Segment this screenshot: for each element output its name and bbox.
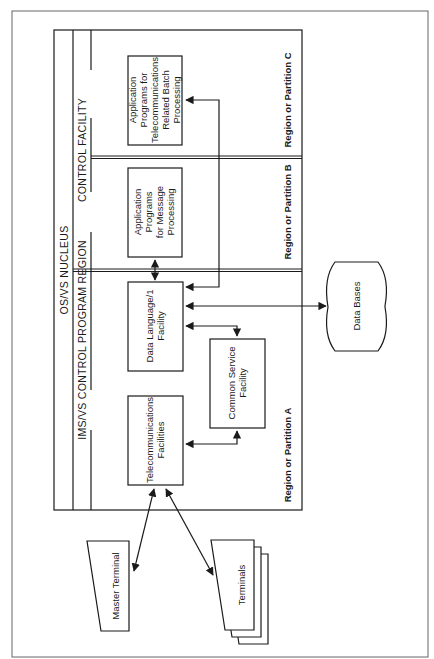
diagram-canvas: OS/VS NUCLEUS IMS/VS CONTROL PROGRAM REG…	[0, 0, 434, 659]
os-vs-nucleus-label: OS/VS NUCLEUS	[58, 225, 70, 314]
svg-text:Facilities: Facilities	[155, 421, 166, 458]
svg-text:Telecommunications: Telecommunications	[149, 57, 160, 143]
arrow-telecom-master-terminal	[134, 489, 154, 571]
svg-text:Facility: Facility	[155, 311, 166, 341]
control-facility-label: CONTROL FACILITY	[76, 98, 88, 202]
terminals-label: Terminals	[236, 564, 247, 605]
ims-control-region-label: IMS/VS CONTROL PROGRAM REGION	[76, 240, 88, 440]
svg-text:Facility: Facility	[237, 368, 248, 398]
arrow-dl1-app-batch	[186, 100, 219, 287]
svg-text:Common Service: Common Service	[226, 347, 237, 420]
partition-a-label: Region or Partition A	[282, 408, 293, 503]
svg-text:Application: Application	[127, 77, 138, 123]
master-terminal-label: Master Terminal	[110, 552, 121, 619]
data-bases-label: Data Bases	[351, 281, 362, 330]
master-terminal-shape	[87, 541, 129, 631]
svg-text:for Message: for Message	[154, 186, 165, 238]
partition-c-label: Region or Partition C	[282, 52, 293, 147]
terminals-shape	[211, 540, 254, 630]
svg-text:Related Batch: Related Batch	[160, 70, 171, 130]
svg-text:Processing: Processing	[171, 77, 182, 124]
partition-b-label: Region or Partition B	[282, 164, 293, 259]
svg-text:Processing: Processing	[165, 189, 176, 236]
arrow-telecom-terminals	[166, 489, 213, 575]
app-message-text: Application Programs for Message Process…	[132, 186, 176, 238]
svg-text:Data Language/1: Data Language/1	[144, 290, 155, 363]
arrow-telecom-common-service	[186, 431, 237, 444]
svg-text:Application: Application	[132, 189, 143, 235]
svg-text:Programs: Programs	[143, 191, 154, 232]
svg-text:Telecommunications: Telecommunications	[144, 397, 155, 483]
svg-text:Programs for: Programs for	[138, 73, 149, 128]
arrow-dl1-common-service	[186, 326, 237, 336]
